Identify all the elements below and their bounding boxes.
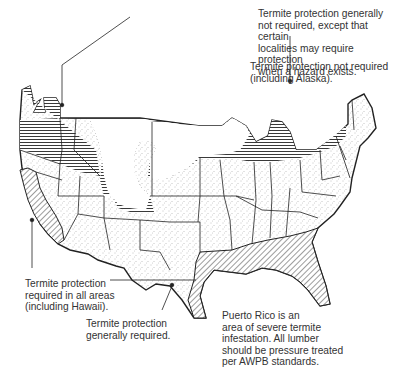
puerto-rico-note: Puerto Rico is an area of severe termite… [222, 310, 343, 368]
legend-diagonal-hatch: Termite protection required in all areas… [25, 278, 114, 313]
legend-stipple: Termite protection generally required. [86, 318, 170, 341]
legend-blank: Termite protection not required (includi… [250, 61, 388, 84]
